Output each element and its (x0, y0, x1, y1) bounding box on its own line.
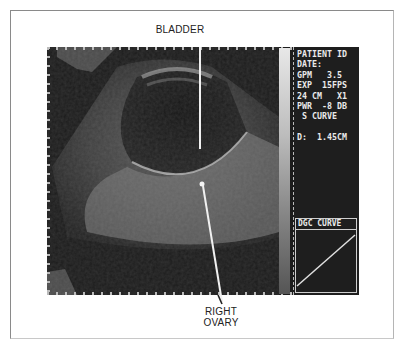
right-ovary-label-line1: RIGHT (196, 306, 246, 317)
panel-line: DATE: (297, 59, 322, 69)
panel-line: GPM 3.5 (297, 70, 342, 80)
panel-line: 24 CM X1 (297, 91, 347, 101)
scale-ticks-left (47, 47, 50, 295)
panel-line: D: 1.45CM (297, 132, 347, 142)
dgc-curve-title: DGC CURVE (296, 219, 356, 230)
right-ovary-label: RIGHT OVARY (196, 306, 246, 328)
panel-line: PWR -8 DB (297, 101, 347, 111)
ultrasound-scan-image (47, 47, 279, 295)
bladder-label: BLADDER (150, 24, 210, 35)
panel-line: PATIENT ID (297, 49, 347, 59)
panel-line: EXP 15FPS (297, 80, 347, 90)
scale-ticks-top (47, 47, 293, 50)
right-ovary-label-line2: OVARY (196, 317, 246, 328)
dgc-curve-graph (296, 230, 356, 294)
panel-line: S CURVE (297, 111, 337, 121)
parameter-text: PATIENT ID DATE: GPM 3.5 EXP 15FPS 24 CM… (297, 49, 347, 143)
scale-ticks-bottom (47, 292, 293, 295)
parameter-panel: PATIENT ID DATE: GPM 3.5 EXP 15FPS 24 CM… (293, 47, 359, 295)
grayscale-bar (279, 48, 290, 294)
bladder-pointer-line (199, 47, 201, 149)
ultrasound-screen: PATIENT ID DATE: GPM 3.5 EXP 15FPS 24 CM… (47, 47, 359, 295)
dgc-curve-box: DGC CURVE (295, 218, 357, 293)
